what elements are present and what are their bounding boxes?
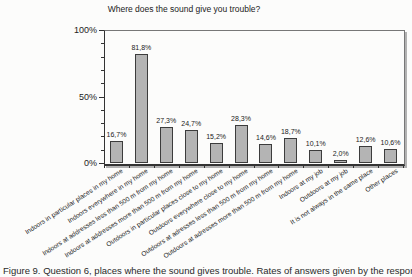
category-label: It is not always in the same place bbox=[202, 167, 374, 277]
figure-caption: Figure 9. Question 6, places where the s… bbox=[3, 265, 411, 276]
y-axis-tick-label: 50% bbox=[39, 92, 97, 102]
category-label: Outdoors at my job bbox=[177, 167, 349, 277]
category-label: Outdoors in particular places close to m… bbox=[52, 167, 224, 277]
category-label: Indoors in particular places in my home bbox=[0, 167, 124, 277]
category-label: Indoors everywhere in my home bbox=[0, 167, 149, 277]
category-label: Outdoors everywhere close to my home bbox=[77, 167, 249, 277]
category-label: Outdoors at adresses less than 500 m fro… bbox=[102, 167, 274, 277]
category-label: Indoors at my job bbox=[152, 167, 324, 277]
chart-title: Where does the sound give you trouble? bbox=[24, 4, 344, 14]
y-axis-tick-label: 100% bbox=[39, 25, 97, 35]
category-label: Other places bbox=[227, 167, 399, 277]
category-label: Outdoors at adresses more than 500 m fro… bbox=[127, 167, 299, 277]
category-label: Indoors at addresses more than 500 m fro… bbox=[27, 167, 199, 277]
y-axis-tick-label: 0% bbox=[39, 158, 97, 168]
figure-page: Where does the sound give you trouble? 1… bbox=[0, 0, 412, 277]
category-label: Indoors at addresses less than 500 m fro… bbox=[3, 167, 175, 277]
plot-area bbox=[104, 30, 405, 166]
